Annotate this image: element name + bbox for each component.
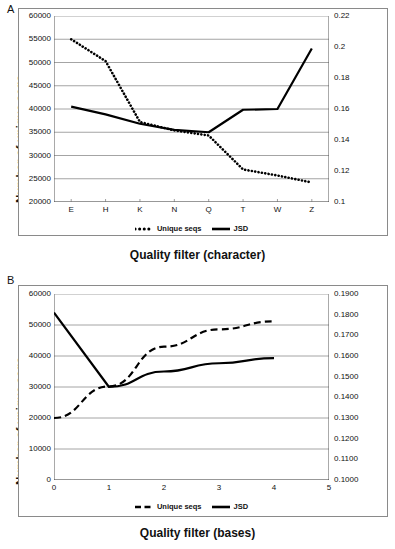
tick-label: 0.2 [334, 43, 345, 51]
panel-b-y-tick-labels: 0100002000030000400005000060000 [20, 294, 51, 480]
series-line-jsd [71, 49, 312, 133]
legend-label: Unique seqs [157, 502, 202, 511]
tick-label: 0.1100 [334, 455, 358, 463]
panel-a-x-tick-labels: EHKNQTWZ [54, 206, 329, 218]
tick-label: 0.1600 [334, 352, 358, 360]
series-line-unique-seqs [54, 321, 274, 418]
tick-label: H [103, 206, 109, 214]
tick-label: 45000 [29, 82, 51, 90]
legend-swatch-dashed [135, 504, 153, 510]
series-line-jsd [54, 313, 274, 387]
series-line-unique-seqs [71, 39, 312, 182]
tick-label: 0.22 [334, 12, 350, 20]
panel-b-plot-area [54, 294, 329, 480]
tick-label: 30000 [29, 152, 51, 160]
panel-b-plot-svg [54, 294, 329, 480]
legend-swatch-dotted [135, 226, 153, 232]
panel-b-x-tick-labels: 012345 [54, 484, 329, 496]
tick-label: 20000 [29, 198, 51, 206]
tick-label: 25000 [29, 175, 51, 183]
panel-a-plot-area [54, 16, 329, 202]
tick-label: 5 [327, 484, 331, 492]
tick-label: 0.1700 [334, 331, 358, 339]
panel-a-plot-svg [54, 16, 329, 202]
tick-label: 50000 [29, 59, 51, 67]
legend-item: JSD [212, 502, 249, 511]
panel-a: A Number of unique seqs Distance from mo… [0, 0, 395, 272]
tick-label: 60000 [29, 12, 51, 20]
legend-label: JSD [234, 502, 249, 511]
tick-label: N [171, 206, 177, 214]
legend-item: Unique seqs [135, 224, 202, 233]
legend-label: Unique seqs [157, 224, 202, 233]
tick-label: W [274, 206, 282, 214]
tick-label: 30000 [29, 383, 51, 391]
tick-label: 10000 [29, 445, 51, 453]
legend-label: JSD [234, 224, 249, 233]
panel-a-x-axis-title: Quality filter (character) [0, 248, 395, 262]
legend-item: JSD [212, 224, 249, 233]
tick-label: 40000 [29, 105, 51, 113]
tick-label: 40000 [29, 352, 51, 360]
tick-label: 35000 [29, 128, 51, 136]
tick-label: 0.16 [334, 105, 350, 113]
panel-a-legend: Unique seqsJSD [54, 224, 329, 233]
panel-a-letter: A [7, 3, 15, 15]
legend-swatch-solid [212, 226, 230, 232]
panel-b-letter: B [7, 274, 15, 286]
panel-b-legend: Unique seqsJSD [54, 502, 329, 511]
legend-swatch-solid [212, 504, 230, 510]
panel-b: B Number of unique seqs Distance from mo… [0, 272, 395, 549]
tick-label: 0 [52, 484, 56, 492]
tick-label: 0.14 [334, 136, 350, 144]
tick-label: 0.18 [334, 74, 350, 82]
tick-label: 0.12 [334, 167, 350, 175]
panel-b-y2-tick-labels: 0.10000.11000.12000.13000.14000.15000.16… [334, 294, 374, 480]
panel-a-y-tick-labels: 2000025000300003500040000450005000055000… [20, 16, 51, 202]
legend-item: Unique seqs [135, 502, 202, 511]
tick-label: 0.1000 [334, 476, 358, 484]
tick-label: T [241, 206, 246, 214]
figure-root: A Number of unique seqs Distance from mo… [0, 0, 395, 549]
tick-label: Z [309, 206, 314, 214]
tick-label: Q [206, 206, 212, 214]
tick-label: 20000 [29, 414, 51, 422]
panel-b-x-axis-title: Quality filter (bases) [0, 526, 395, 540]
tick-label: 0.1 [334, 198, 345, 206]
panel-a-y2-tick-labels: 0.10.120.140.160.180.20.22 [334, 16, 372, 202]
tick-label: 0.1900 [334, 290, 358, 298]
tick-label: 0.1500 [334, 373, 358, 381]
tick-label: 0 [47, 476, 51, 484]
tick-label: 0.1400 [334, 393, 358, 401]
tick-label: 0.1800 [334, 311, 358, 319]
tick-label: 4 [272, 484, 276, 492]
tick-label: 3 [217, 484, 221, 492]
tick-label: E [69, 206, 74, 214]
tick-label: 2 [162, 484, 166, 492]
tick-label: 50000 [29, 321, 51, 329]
tick-label: 55000 [29, 35, 51, 43]
tick-label: 1 [107, 484, 111, 492]
tick-label: 0.1200 [334, 435, 358, 443]
tick-label: K [137, 206, 142, 214]
tick-label: 60000 [29, 290, 51, 298]
tick-label: 0.1300 [334, 414, 358, 422]
